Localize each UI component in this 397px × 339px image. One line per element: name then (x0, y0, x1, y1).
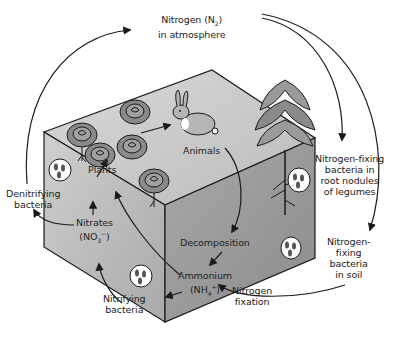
cabbage-plant-icon (117, 135, 147, 159)
label-legume-bacteria: Nitrogen-fixing bacteria in root nodules… (315, 153, 384, 197)
label-nitrates: Nitrates (NO3−) (76, 217, 113, 246)
cabbage-plant-icon (120, 100, 150, 124)
bacteria-cell-icon (130, 265, 152, 287)
label-denitrifying-bacteria: Denitrifyingbacteria (6, 188, 60, 210)
label-animals: Animals (183, 145, 220, 156)
bacteria-cell-icon (288, 168, 310, 192)
bacteria-cell-icon (49, 159, 71, 181)
label-nitrogen-fixation: Nitrogenfixation (232, 285, 272, 307)
label-soil-bacteria: Nitrogen- fixing bacteria in soil (327, 236, 370, 280)
label-ammonium: Ammonium (NH4+) (178, 270, 232, 299)
label-atmosphere: Nitrogen (N2) in atmosphere (158, 14, 225, 40)
label-decomposition: Decomposition (180, 237, 250, 248)
nitrogen-cycle-diagram: Nitrogen (N2) in atmosphere Animals Plan… (0, 0, 397, 339)
label-plants: Plants (88, 164, 116, 175)
label-nitrifying-bacteria: Nitrifyingbacteria (103, 293, 146, 315)
bacteria-cell-icon (281, 237, 301, 259)
